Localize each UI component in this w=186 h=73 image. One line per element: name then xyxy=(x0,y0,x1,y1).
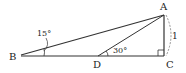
label-A: A xyxy=(159,1,168,12)
geometry-diagram: A B C D 15° 30° 1 xyxy=(0,0,186,73)
label-C: C xyxy=(166,59,174,70)
angle-label-15: 15° xyxy=(37,29,51,38)
label-B: B xyxy=(9,51,16,62)
angle-arc-D xyxy=(106,51,108,56)
segment-DA xyxy=(98,15,164,56)
angle-label-30: 30° xyxy=(113,46,127,55)
label-D: D xyxy=(93,59,101,70)
angle-leader-15 xyxy=(44,38,48,51)
right-angle-marker xyxy=(158,50,164,56)
length-label-1: 1 xyxy=(172,31,178,41)
length-arc-AC xyxy=(166,15,171,56)
